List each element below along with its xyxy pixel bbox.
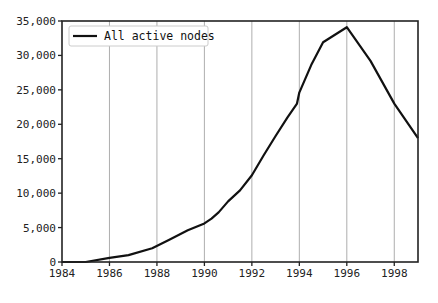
y-tick-label: 35,000 <box>16 15 56 28</box>
x-tick-label: 1988 <box>144 267 171 280</box>
x-tick-label: 1990 <box>191 267 218 280</box>
y-tick-label: 30,000 <box>16 49 56 62</box>
legend-label: All active nodes <box>104 29 215 43</box>
series-line-all-active-nodes <box>62 27 418 262</box>
x-gridlines <box>109 21 394 262</box>
y-tick-label: 10,000 <box>16 187 56 200</box>
x-axis-ticks: 19841986198819901992199419961998 <box>49 262 408 280</box>
x-tick-label: 1996 <box>334 267 361 280</box>
y-axis-ticks: 05,00010,00015,00020,00025,00030,00035,0… <box>16 15 62 269</box>
y-tick-label: 25,000 <box>16 84 56 97</box>
legend: All active nodes <box>69 26 215 46</box>
plot-frame <box>62 21 418 262</box>
x-tick-label: 1994 <box>286 267 313 280</box>
x-tick-label: 1986 <box>96 267 123 280</box>
y-tick-label: 5,000 <box>23 222 56 235</box>
y-tick-label: 15,000 <box>16 153 56 166</box>
line-chart: 19841986198819901992199419961998 05,0001… <box>0 0 438 303</box>
y-tick-label: 0 <box>49 256 56 269</box>
x-tick-label: 1998 <box>381 267 408 280</box>
y-tick-label: 20,000 <box>16 118 56 131</box>
x-tick-label: 1992 <box>239 267 266 280</box>
series-layer <box>62 27 418 262</box>
